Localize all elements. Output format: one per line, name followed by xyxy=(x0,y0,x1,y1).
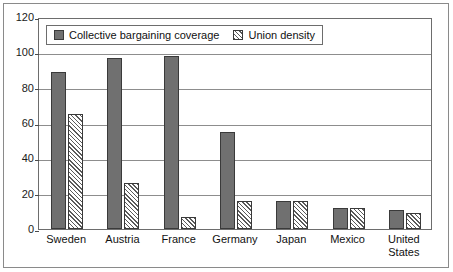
bar xyxy=(276,201,291,229)
bar-group xyxy=(377,19,433,229)
plot-area xyxy=(38,18,432,230)
legend-entry: Collective bargaining coverage xyxy=(54,29,219,41)
x-tick-label-line: United xyxy=(376,233,432,246)
bar-group xyxy=(39,19,95,229)
legend-label: Collective bargaining coverage xyxy=(69,29,219,41)
bar xyxy=(350,208,365,229)
legend-entry: Union density xyxy=(233,29,315,41)
y-tick-label: 120 xyxy=(4,12,34,23)
x-tick-label-line: States xyxy=(376,246,432,259)
bars-layer xyxy=(39,19,431,229)
x-tick-label: Sweden xyxy=(38,233,94,246)
bar xyxy=(68,114,83,229)
x-tick-label-line: Japan xyxy=(263,233,319,246)
y-tick-label: 100 xyxy=(4,47,34,58)
x-tick-label: Japan xyxy=(263,233,319,246)
bar xyxy=(181,217,196,229)
x-tick-label: Mexico xyxy=(319,233,375,246)
x-tick-label: UnitedStates xyxy=(376,233,432,259)
x-tick-label: France xyxy=(151,233,207,246)
bar-group xyxy=(264,19,320,229)
legend-swatch-solid-icon xyxy=(54,30,64,40)
y-tick-mark xyxy=(35,231,39,232)
chart-legend: Collective bargaining coverageUnion dens… xyxy=(46,25,323,45)
x-tick-label: Austria xyxy=(94,233,150,246)
bar xyxy=(293,201,308,229)
x-tick-label: Germany xyxy=(207,233,263,246)
y-tick-label: 80 xyxy=(4,83,34,94)
bar-group xyxy=(320,19,376,229)
y-tick-label: 40 xyxy=(4,153,34,164)
legend-swatch-hatch-icon xyxy=(233,30,243,40)
y-tick-label: 0 xyxy=(4,224,34,235)
bar xyxy=(51,72,66,229)
bar xyxy=(406,213,421,229)
x-tick-label-line: France xyxy=(151,233,207,246)
chart-figure: 020406080100120 Collective bargaining co… xyxy=(0,0,453,272)
bar xyxy=(220,132,235,229)
x-tick-label-line: Germany xyxy=(207,233,263,246)
bar xyxy=(333,208,348,229)
bar-group xyxy=(208,19,264,229)
bar-group xyxy=(95,19,151,229)
bar xyxy=(164,56,179,229)
bar xyxy=(124,183,139,229)
x-axis: SwedenAustriaFranceGermanyJapanMexicoUni… xyxy=(38,233,432,267)
x-tick-label-line: Austria xyxy=(94,233,150,246)
y-tick-label: 20 xyxy=(4,189,34,200)
bar xyxy=(237,201,252,229)
bar xyxy=(107,58,122,229)
bar-group xyxy=(152,19,208,229)
legend-label: Union density xyxy=(248,29,315,41)
bar xyxy=(389,210,404,229)
x-tick-label-line: Mexico xyxy=(319,233,375,246)
y-tick-label: 60 xyxy=(4,118,34,129)
y-axis: 020406080100120 xyxy=(0,18,34,230)
x-tick-label-line: Sweden xyxy=(38,233,94,246)
